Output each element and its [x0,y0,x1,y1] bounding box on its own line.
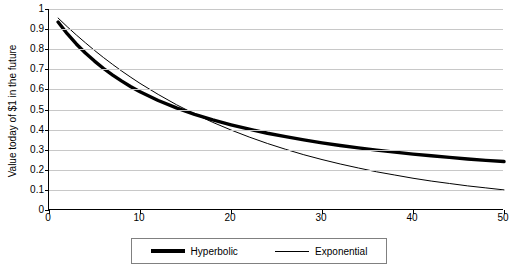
y-tick-label: 0.1 [4,185,44,195]
gridline [49,89,503,90]
y-tick-label: 0.5 [4,105,44,115]
gridline [49,9,503,10]
gridline [49,130,503,131]
y-tick-label: 0.2 [4,165,44,175]
y-tick-label: 1 [4,4,44,14]
gridline [49,49,503,50]
y-tick-mark [45,69,49,70]
gridline [49,29,503,30]
y-tick-mark [45,190,49,191]
gridline [49,110,503,111]
x-tick-label: 30 [306,212,336,224]
y-tick-mark [45,150,49,151]
series-line-exponential [58,18,504,190]
y-tick-mark [45,89,49,90]
y-axis-tick-labels: 00.10.20.30.40.50.60.70.80.91 [0,9,44,210]
gridline [49,150,503,151]
y-tick-label: 0.8 [4,44,44,54]
gridline [49,69,503,70]
plot-area [48,9,503,210]
x-tick-label: 20 [215,212,245,224]
legend-entry-exponential: Exponential [275,246,367,257]
y-tick-label: 0.9 [4,24,44,34]
x-axis-tick-labels: 01020304050 [48,212,504,226]
y-tick-mark [45,130,49,131]
x-tick-label: 10 [124,212,154,224]
x-tick-label: 50 [488,212,516,224]
y-tick-label: 0.6 [4,84,44,94]
y-tick-mark [45,170,49,171]
y-tick-label: 0.4 [4,125,44,135]
y-tick-mark [45,110,49,111]
chart-legend: Hyperbolic Exponential [131,238,387,264]
series-line-hyperbolic [58,22,504,162]
y-tick-mark [45,49,49,50]
legend-swatch-hyperbolic [151,249,185,253]
legend-label-hyperbolic: Hyperbolic [191,246,238,257]
y-tick-mark [45,29,49,30]
x-tick-label: 40 [397,212,427,224]
legend-label-exponential: Exponential [315,246,367,257]
x-tick-label: 0 [33,212,63,224]
gridline [49,190,503,191]
discounting-chart: Value today of $1 in the future 00.10.20… [0,0,516,276]
y-tick-label: 0.7 [4,64,44,74]
y-tick-label: 0.3 [4,145,44,155]
legend-entry-hyperbolic: Hyperbolic [151,246,238,257]
gridline [49,170,503,171]
y-tick-mark [45,9,49,10]
legend-swatch-exponential [275,251,309,252]
